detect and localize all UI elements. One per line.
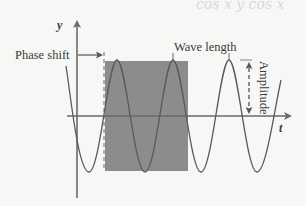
y-axis-label: y (57, 18, 62, 33)
t-axis-label: t (279, 121, 282, 136)
amplitude-label: Amplitude (256, 61, 271, 114)
wave-length-label: Wave length (174, 40, 237, 55)
faint-handwriting: cos x y cos x (196, 0, 284, 12)
sine-wave-diagram: cos x y cos x y t Phase shift Wave lengt… (0, 0, 306, 206)
phase-shift-label: Phase shift (15, 48, 70, 63)
